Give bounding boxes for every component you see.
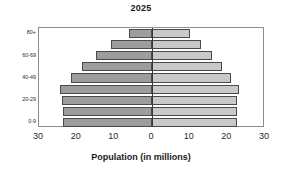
y-tick-label: 60-69 <box>2 52 36 58</box>
bar-left-50-59 <box>82 62 152 71</box>
y-tick-label: 40-49 <box>2 74 36 80</box>
pyramid-band <box>39 107 263 116</box>
pyramid-band <box>39 51 263 60</box>
bar-left-30-39 <box>60 85 152 94</box>
bar-right-30-39 <box>152 85 239 94</box>
bar-left-80+ <box>129 29 152 38</box>
x-tick-label: 10 <box>100 131 126 141</box>
zero-axis-line <box>152 28 153 126</box>
x-tick-label: 10 <box>176 131 202 141</box>
x-tick-label: 20 <box>63 131 89 141</box>
y-axis-labels: 0-920-2940-4960-6980+ <box>0 27 36 127</box>
bar-right-10-19 <box>152 107 237 116</box>
bar-right-40-49 <box>152 73 231 82</box>
bar-right-50-59 <box>152 62 222 71</box>
x-tick-label: 30 <box>25 131 51 141</box>
bar-left-10-19 <box>63 107 152 116</box>
bar-right-60-69 <box>152 51 212 60</box>
bar-right-20-29 <box>152 96 237 105</box>
y-tick-label: 20-29 <box>2 96 36 102</box>
x-tick-label: 30 <box>251 131 277 141</box>
y-tick-label: 80+ <box>2 29 36 35</box>
chart-title: 2025 <box>0 3 282 13</box>
bar-right-70-79 <box>152 40 201 49</box>
bar-right-0-9 <box>152 118 237 127</box>
x-tick-label: 20 <box>213 131 239 141</box>
bar-left-60-69 <box>96 51 153 60</box>
pyramid-band <box>39 96 263 105</box>
x-tick-label: 0 <box>138 131 164 141</box>
pyramid-band <box>39 118 263 127</box>
pyramid-band <box>39 40 263 49</box>
pyramid-band <box>39 73 263 82</box>
x-axis-labels: 3020100102030 <box>0 131 282 145</box>
population-pyramid-chart: 2025 0-920-2940-4960-6980+ 3020100102030… <box>0 0 282 175</box>
bar-left-0-9 <box>63 118 152 127</box>
bar-left-20-29 <box>62 96 152 105</box>
pyramid-band <box>39 29 263 38</box>
bar-right-80+ <box>152 29 190 38</box>
y-tick-label: 0-9 <box>2 118 36 124</box>
plot-area <box>38 27 264 127</box>
bar-left-40-49 <box>71 73 152 82</box>
pyramid-band <box>39 85 263 94</box>
x-axis-title: Population (in millions) <box>0 152 282 162</box>
bars-layer <box>39 28 263 126</box>
bar-left-70-79 <box>111 40 152 49</box>
pyramid-band <box>39 62 263 71</box>
